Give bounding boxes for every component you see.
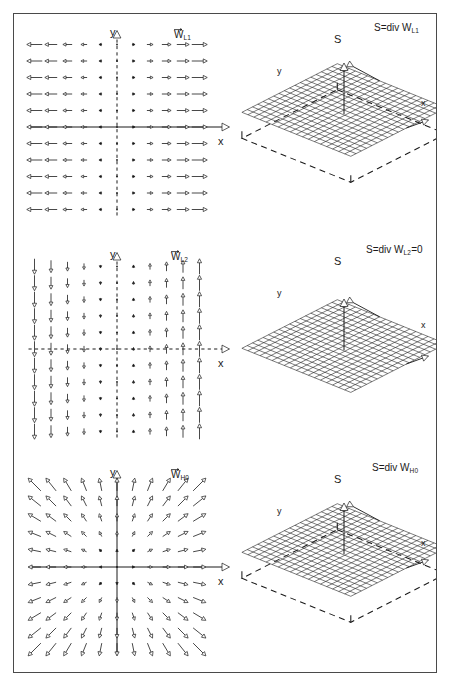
vector-arrow-overbar-1 xyxy=(171,249,179,253)
field-title-2: WH0 xyxy=(171,470,189,480)
surface-axis-x-label-2: x xyxy=(421,539,426,548)
surface-axis-x-label-1: x xyxy=(421,321,426,330)
surface-axis-x-label-0: x xyxy=(421,99,426,108)
surface-title-sub-2: H0 xyxy=(410,467,419,474)
field-axis-x-label-1: x xyxy=(218,358,224,369)
surface-title-sub-1: L2 xyxy=(404,249,412,256)
field-title-sub-0: L1 xyxy=(183,34,191,41)
surface-title-prefix-0: S=div W xyxy=(374,22,412,33)
field-title-0: WL1 xyxy=(174,30,191,40)
surface-axis-y-label-1: y xyxy=(277,289,282,298)
surface-title-prefix-1: S=div W xyxy=(366,244,404,255)
field-axis-y-label-0: y xyxy=(110,27,116,38)
panel-WL2-graphics xyxy=(14,236,436,458)
field-title-sub-1: L2 xyxy=(180,256,188,263)
surface-mesh xyxy=(242,61,436,182)
surface-axis-s-label-0: S xyxy=(334,34,341,45)
panel-WH0-graphics xyxy=(14,458,436,672)
panel-WL1: y x WL1 S S=div WL1 y x xyxy=(14,14,436,236)
panel-WL2: y x WL2 S S=div WL2=0 y x xyxy=(14,236,436,458)
vector-arrow-overbar-0 xyxy=(174,27,182,31)
vector-field-arrows xyxy=(29,253,230,440)
surface-title-2: S=div WH0 xyxy=(372,463,418,473)
surface-title-1: S=div WL2=0 xyxy=(366,245,423,255)
surface-title-sub-0: L1 xyxy=(412,27,420,34)
figure-root: y x WL1 S S=div WL1 y x y x WL2 S S=div … xyxy=(0,0,451,687)
surface-mesh xyxy=(242,501,436,622)
surface-mesh xyxy=(242,297,436,392)
field-title-sub-2: H0 xyxy=(180,474,189,481)
surface-title-prefix-2: S=div W xyxy=(372,462,410,473)
panel-WH0: y x WH0 S S=div WH0 y x xyxy=(14,458,436,672)
field-axis-y-label-2: y xyxy=(110,467,116,478)
vector-arrow-overbar-2 xyxy=(171,467,179,471)
surface-title-0: S=div WL1 xyxy=(374,23,419,33)
surface-title-suffix-1: =0 xyxy=(411,244,422,255)
surface-axis-s-label-1: S xyxy=(334,256,341,267)
field-axis-x-label-2: x xyxy=(218,576,224,587)
surface-axis-y-label-0: y xyxy=(277,67,282,76)
vector-field-arrows xyxy=(27,31,230,216)
panel-WL1-graphics xyxy=(14,14,436,236)
field-axis-y-label-1: y xyxy=(110,249,116,260)
field-axis-x-label-0: x xyxy=(218,136,224,147)
surface-axis-y-label-2: y xyxy=(277,507,282,516)
field-title-1: WL2 xyxy=(171,252,188,262)
surface-axis-s-label-2: S xyxy=(334,474,341,485)
vector-field-arrows xyxy=(28,471,229,656)
